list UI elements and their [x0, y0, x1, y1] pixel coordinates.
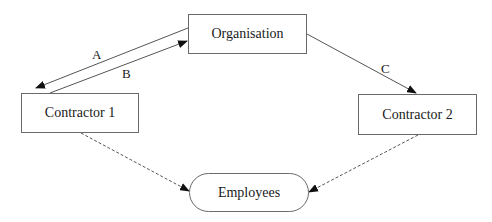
node-contractor2: Contractor 2 — [358, 94, 477, 135]
node-label: Contractor 2 — [382, 107, 452, 123]
edge-label-b: B — [122, 67, 131, 80]
node-label: Contractor 1 — [45, 105, 115, 121]
node-contractor1: Contractor 1 — [21, 93, 139, 133]
edge-contractor2-employees — [309, 135, 418, 192]
edge-b — [50, 41, 187, 93]
edge-label-c: C — [381, 62, 390, 75]
edge-contractor1-employees — [81, 133, 189, 191]
edge-a — [36, 28, 188, 88]
node-employees: Employees — [189, 173, 309, 212]
node-label: Organisation — [211, 26, 283, 42]
edge-c — [307, 34, 416, 93]
node-organisation: Organisation — [188, 14, 307, 54]
node-label: Employees — [218, 185, 280, 201]
edge-label-a: A — [92, 48, 101, 61]
